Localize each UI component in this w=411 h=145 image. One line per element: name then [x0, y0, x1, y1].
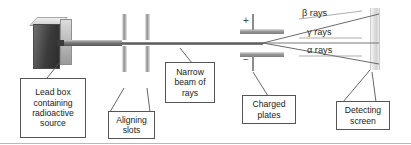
callout-narrow-beam-line-3: rays	[182, 88, 198, 98]
callout-aligning-slots-line-1: Aligning	[116, 115, 147, 125]
callout-narrow-beam-line-2: beam of	[174, 77, 205, 87]
callout-charged-plates: Charged plates	[242, 95, 296, 124]
ray-label-gamma: γ rays	[307, 27, 332, 37]
callout-charged-plates-line-1: Charged	[253, 99, 286, 109]
callout-detecting-screen: Detecting screen	[336, 101, 390, 130]
leader-detecting-screen-right	[372, 72, 376, 102]
callout-aligning-slots-line-2: slots	[123, 125, 141, 135]
callout-lead-box-line-3: radioactive	[32, 108, 74, 118]
leader-narrow-beam	[180, 48, 192, 63]
figure-bottom-divider	[0, 143, 411, 144]
ray-label-alpha: α rays	[307, 45, 332, 55]
callout-detecting-screen-line-2: screen	[350, 116, 376, 126]
callout-narrow-beam-line-1: Narrow	[176, 67, 204, 77]
leader-aligning-slot-2	[147, 88, 150, 112]
callout-narrow-beam: Narrow beam of rays	[165, 62, 215, 103]
leader-lead-box	[47, 62, 60, 78]
callout-lead-box: Lead box containing radioactive source	[20, 78, 86, 138]
radioactivity-deflection-diagram: + − β rays γ rays α rays Lead box contai…	[0, 0, 411, 145]
callout-aligning-slots: Aligning slots	[108, 111, 155, 139]
ray-label-beta: β rays	[302, 8, 327, 18]
callout-lead-box-line-4: source	[40, 118, 66, 128]
callout-lead-box-line-1: Lead box	[35, 87, 70, 97]
callout-detecting-screen-line-1: Detecting	[345, 105, 381, 115]
callout-charged-plates-line-2: plates	[258, 110, 281, 120]
leader-aligning-slot-1	[110, 88, 124, 112]
leader-charged-plates	[253, 72, 268, 96]
callout-lead-box-line-2: containing	[33, 98, 72, 108]
leader-detecting-screen-left	[343, 70, 370, 102]
